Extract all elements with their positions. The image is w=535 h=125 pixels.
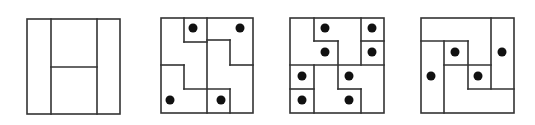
dot-icon [451, 48, 460, 57]
dot-icon [474, 72, 483, 81]
dot-icon [298, 72, 307, 81]
panel-1 [27, 19, 120, 114]
dot-icon [345, 96, 354, 105]
dot-icon [321, 24, 330, 33]
panel-4 [421, 18, 514, 113]
dot-icon [368, 24, 377, 33]
dot-icon [189, 24, 198, 33]
dot-icon [345, 72, 354, 81]
dot-icon [166, 96, 175, 105]
puzzle-figure [0, 0, 535, 125]
panel-3 [290, 18, 384, 113]
dot-icon [321, 48, 330, 57]
dot-icon [498, 48, 507, 57]
dot-icon [298, 96, 307, 105]
dot-icon [427, 72, 436, 81]
dot-icon [368, 48, 377, 57]
dot-icon [217, 96, 226, 105]
dot-icon [236, 24, 245, 33]
panel-2 [161, 18, 253, 113]
